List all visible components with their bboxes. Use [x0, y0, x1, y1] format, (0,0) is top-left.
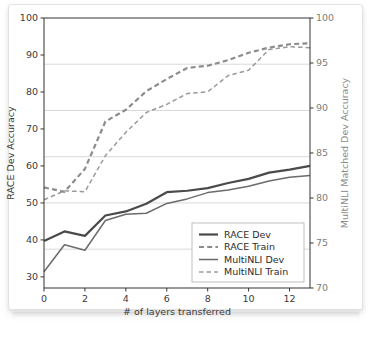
series-line-multinli-train — [44, 47, 310, 200]
x-axis-title: # of layers transferred — [123, 306, 231, 317]
x-axis-tick-label: 4 — [123, 293, 129, 304]
chart-canvas: 3040506070809010070758085909510002468101… — [0, 0, 381, 337]
y-axis-tick-label-right: 100 — [316, 12, 334, 23]
legend-label-multinli-dev: MultiNLI Dev — [224, 254, 285, 265]
y-axis-tick-label-left: 100 — [20, 12, 38, 23]
y-axis-tick-label-right: 85 — [316, 147, 328, 158]
series-line-race-train — [44, 43, 310, 192]
x-axis-tick-label: 6 — [164, 293, 170, 304]
y-axis-tick-label-left: 90 — [26, 49, 38, 60]
y-axis-tick-label-left: 60 — [26, 160, 38, 171]
y-axis-tick-label-right: 75 — [316, 237, 328, 248]
y-axis-title-left: RACE Dev Accuracy — [5, 106, 16, 200]
gridlines-group — [44, 64, 310, 249]
chart-legend[interactable]: RACE DevRACE TrainMultiNLI DevMultiNLI T… — [192, 223, 304, 282]
y-axis-title-right: MultiNLI Matched Dev Accuracy — [339, 77, 350, 228]
legend-label-multinli-train: MultiNLI Train — [224, 266, 288, 277]
y-axis-tick-label-right: 80 — [316, 192, 328, 203]
x-axis-tick-label: 8 — [205, 293, 211, 304]
y-axis-tick-label-left: 30 — [26, 271, 38, 282]
legend-label-race-dev: RACE Dev — [224, 229, 271, 240]
x-axis-tick-label: 0 — [41, 293, 47, 304]
x-axis-tick-label: 2 — [82, 293, 88, 304]
y-axis-tick-label-right: 95 — [316, 57, 328, 68]
y-axis-tick-label-left: 80 — [26, 86, 38, 97]
y-axis-tick-label-right: 70 — [316, 282, 328, 293]
y-axis-tick-label-left: 40 — [26, 234, 38, 245]
x-axis-tick-label: 10 — [243, 293, 255, 304]
x-axis-tick-label: 12 — [283, 293, 295, 304]
y-axis-tick-label-left: 50 — [26, 197, 38, 208]
y-axis-tick-label-right: 90 — [316, 102, 328, 113]
legend-label-race-train: RACE Train — [224, 241, 275, 252]
y-axis-tick-label-left: 70 — [26, 123, 38, 134]
